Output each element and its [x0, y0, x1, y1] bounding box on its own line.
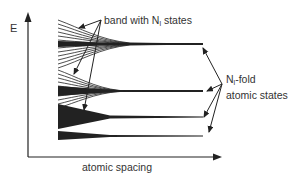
fold-label-line1: Nl-fold	[226, 73, 288, 89]
band-label-suffix: states	[161, 14, 192, 26]
band-label: band with Nl states	[104, 14, 192, 30]
fold-label-suffix: -fold	[235, 73, 255, 85]
fold-label: Nl-fold atomic states	[226, 73, 288, 101]
band-level-4	[58, 131, 203, 140]
fold-label-arrows	[203, 48, 222, 132]
x-axis	[28, 154, 222, 161]
band-label-prefix: band with N	[104, 14, 159, 26]
y-axis	[25, 12, 32, 157]
x-axis-label: atomic spacing	[82, 161, 152, 173]
band-level-2	[58, 70, 203, 108]
band-level-3	[58, 104, 203, 129]
fold-label-line2: atomic states	[226, 89, 288, 101]
fold-label-prefix: N	[226, 73, 234, 85]
y-axis-label: E	[10, 22, 17, 34]
